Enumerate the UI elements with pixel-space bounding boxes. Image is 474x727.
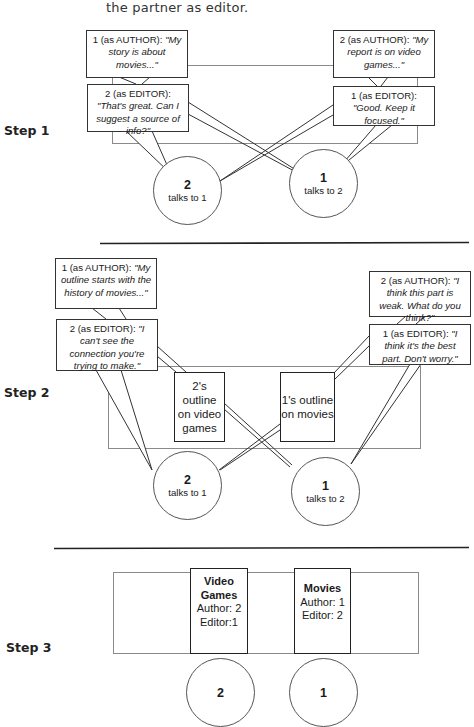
bubble-speaker: 1 (as AUTHOR): (93, 34, 166, 45)
student-circle-2: 2 talks to 1 (153, 156, 222, 225)
outline-document-video-games: 2's outline on video games (174, 372, 225, 442)
student-number: 2 (217, 686, 224, 700)
student-caption: talks to 2 (306, 493, 344, 505)
student-circle-2: 2 (186, 658, 255, 727)
speech-bubble-1-editor: 1 (as EDITOR): "Good. Keep it focused." (333, 86, 435, 126)
student-number: 1 (320, 171, 327, 185)
document-author: Author: 2 (191, 602, 247, 616)
student-caption: talks to 2 (304, 185, 342, 197)
speech-bubble-2-editor: 2 (as EDITOR): "That's great. Can I sugg… (87, 84, 189, 132)
bubble-quote: "Good. Keep it focused." (353, 102, 415, 125)
document-author: Author: 1 (295, 596, 350, 610)
bubble-speaker: 2 (as AUTHOR): (340, 34, 413, 45)
student-circle-1: 1 talks to 2 (289, 149, 358, 218)
document-editor: Editor:1 (191, 616, 247, 630)
document-title: Movies (295, 582, 350, 596)
student-number: 2 (184, 473, 191, 487)
student-number: 1 (320, 686, 327, 700)
student-caption: talks to 1 (168, 192, 206, 204)
bubble-speaker: 1 (as EDITOR): (383, 328, 452, 339)
outline-document-movies: 1's outline on movies (280, 372, 335, 442)
bubble-speaker: 2 (as EDITOR): (105, 88, 171, 99)
document-text: 1's outline on movies (281, 393, 334, 421)
bubble-speaker: 2 (as AUTHOR): (381, 275, 454, 286)
student-circle-1: 1 talks to 2 (291, 457, 360, 526)
speech-bubble-1-author: 1 (as AUTHOR): "My story is about movies… (86, 30, 188, 78)
document-title: Video Games (191, 575, 247, 602)
document-text: 2's outline on video games (175, 379, 224, 435)
bubble-speaker: 1 (as EDITOR): (351, 90, 417, 101)
speech-bubble-1-author: 1 (as AUTHOR): "My outline starts with t… (55, 258, 157, 309)
final-document-movies: Movies Author: 1 Editor: 2 (294, 568, 351, 654)
student-number: 1 (322, 479, 329, 493)
speech-bubble-1-editor: 1 (as EDITOR): "I think it's the best pa… (369, 324, 471, 365)
speech-bubble-2-author: 2 (as AUTHOR): "My report is on video ga… (333, 30, 435, 78)
speech-bubble-2-editor: 2 (as EDITOR): "I can't see the connecti… (56, 319, 158, 371)
student-circle-2: 2 talks to 1 (153, 451, 222, 520)
bubble-speaker: 2 (as EDITOR): (70, 323, 139, 334)
final-document-video-games: Video Games Author: 2 Editor:1 (190, 568, 248, 654)
bubble-speaker: 1 (as AUTHOR): (62, 262, 135, 273)
student-caption: talks to 1 (168, 487, 206, 499)
document-editor: Editor: 2 (295, 609, 350, 623)
bubble-quote: "That's great. Can I suggest a source of… (96, 100, 180, 136)
student-circle-1: 1 (289, 658, 358, 727)
speech-bubble-2-author: 2 (as AUTHOR): "I think this part is wea… (369, 271, 471, 317)
student-number: 2 (184, 178, 191, 192)
